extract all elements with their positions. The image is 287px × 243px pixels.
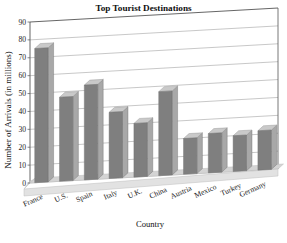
bar-face bbox=[134, 123, 147, 177]
bar-side bbox=[172, 86, 178, 175]
bar-face bbox=[258, 130, 271, 170]
bar-face bbox=[84, 84, 97, 180]
bar bbox=[258, 125, 277, 170]
bar-side bbox=[246, 130, 252, 171]
bar-side bbox=[98, 79, 104, 179]
bar-face bbox=[109, 112, 122, 179]
bar-face bbox=[60, 97, 73, 182]
y-tick-label: 40 bbox=[18, 107, 26, 116]
y-tick-label: 50 bbox=[18, 89, 26, 98]
y-tick-label: 20 bbox=[18, 143, 26, 152]
bar-side bbox=[222, 128, 228, 172]
bar-side bbox=[122, 107, 128, 178]
bar-chart-figure: Top Tourist Destinations Number of Arriv… bbox=[0, 0, 287, 243]
bar-face bbox=[35, 48, 48, 183]
bar bbox=[233, 130, 252, 172]
bar-side bbox=[48, 43, 54, 182]
bar bbox=[159, 86, 178, 176]
y-tick-label: 80 bbox=[18, 35, 26, 44]
y-tick-label: 10 bbox=[18, 161, 26, 170]
y-tick-label: 70 bbox=[18, 53, 26, 62]
y-axis-label: Number of Arrivals (in millions) bbox=[3, 51, 13, 168]
bar-side bbox=[197, 133, 203, 174]
bar bbox=[60, 92, 79, 182]
y-tick-label: 30 bbox=[18, 125, 26, 134]
bar-face bbox=[233, 135, 246, 172]
bar bbox=[35, 43, 54, 183]
bar bbox=[109, 107, 128, 179]
bar bbox=[134, 118, 153, 177]
chart-canvas: Top Tourist Destinations Number of Arriv… bbox=[0, 0, 287, 243]
bar-side bbox=[271, 125, 277, 169]
bar bbox=[184, 133, 203, 175]
bar-side bbox=[73, 92, 79, 181]
bar bbox=[208, 128, 227, 173]
y-tick-label: 60 bbox=[18, 71, 26, 80]
y-tick-label: 0 bbox=[22, 179, 26, 188]
bar-side bbox=[147, 118, 153, 177]
bar-face bbox=[208, 133, 221, 173]
y-tick-label: 90 bbox=[18, 18, 26, 27]
bar-face bbox=[159, 91, 172, 176]
bar bbox=[84, 79, 103, 180]
x-axis-label: Country bbox=[136, 219, 165, 229]
chart-title: Top Tourist Destinations bbox=[95, 3, 192, 13]
bar-face bbox=[184, 138, 197, 175]
